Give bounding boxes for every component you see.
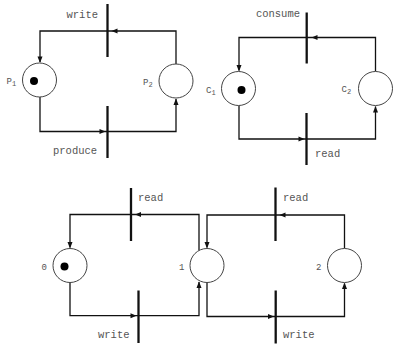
arrowhead-icon xyxy=(131,313,137,318)
place-c2 xyxy=(359,72,393,106)
arrowhead-icon xyxy=(299,137,305,142)
place-label-p2: P2 xyxy=(143,78,153,89)
arc-1-read-0 xyxy=(70,215,199,251)
net-top-right: consume read C1 C2 xyxy=(206,8,393,165)
transition-label-write-right: write xyxy=(283,329,315,341)
place-label-c1: C1 xyxy=(206,86,216,97)
place-label-subscript: 1 xyxy=(211,89,215,97)
arrowhead-icon xyxy=(38,57,43,64)
place-label-2: 2 xyxy=(316,263,321,273)
place-label-1: 1 xyxy=(179,263,184,273)
transition-label-write-left: write xyxy=(98,329,130,341)
arrowhead-icon xyxy=(68,242,73,249)
token xyxy=(30,77,38,85)
arrowhead-icon xyxy=(174,99,179,106)
arrowhead-icon xyxy=(280,213,286,218)
place-0 xyxy=(53,249,87,283)
place-2 xyxy=(328,249,362,283)
transition-label-read-left: read xyxy=(138,192,163,204)
petri-net-diagram: write produce P1 P2 consume read C1 C2 xyxy=(0,0,395,348)
arrowhead-icon xyxy=(237,65,242,72)
arrowhead-icon xyxy=(205,242,210,249)
place-label-0: 0 xyxy=(42,263,47,273)
place-label-p1: P1 xyxy=(7,77,17,88)
token xyxy=(61,263,69,271)
arrowhead-icon xyxy=(342,283,347,290)
arrowhead-icon xyxy=(268,314,274,319)
net-bottom: read write read write 0 1 2 xyxy=(42,188,362,344)
place-p2 xyxy=(159,64,193,98)
transition-label-produce: produce xyxy=(53,145,97,157)
arrowhead-icon xyxy=(135,212,141,217)
transition-label-write: write xyxy=(66,9,98,21)
transition-label-consume: consume xyxy=(256,8,300,20)
arrowhead-icon xyxy=(100,129,106,134)
arrowhead-icon xyxy=(373,106,378,113)
place-1 xyxy=(190,249,224,283)
place-label-c2: C2 xyxy=(342,85,352,96)
arrowhead-icon xyxy=(112,29,118,34)
transition-label-read-right: read xyxy=(283,192,308,204)
place-label-subscript: 1 xyxy=(12,80,16,88)
place-label-subscript: 2 xyxy=(148,81,152,89)
transition-label-read: read xyxy=(315,148,340,160)
place-p1 xyxy=(23,63,57,97)
arrowhead-icon xyxy=(312,35,318,40)
place-label-subscript: 2 xyxy=(347,88,351,96)
token xyxy=(238,86,246,94)
net-top-left: write produce P1 P2 xyxy=(7,4,194,158)
arrowhead-icon xyxy=(197,282,202,289)
arc-0-write-1 xyxy=(70,282,199,316)
